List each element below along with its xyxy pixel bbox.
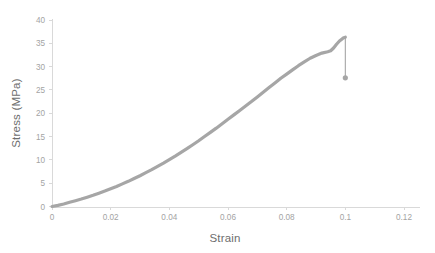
stress-strain-curve [52, 37, 345, 206]
chart-canvas: 0510152025303540 00.020.040.060.080.10.1… [0, 0, 435, 253]
y-tick-label: 30 [36, 63, 46, 72]
fracture-drop-marker [343, 75, 348, 80]
x-tick-label: 0.02 [103, 213, 119, 222]
x-tick-label: 0.1 [340, 213, 352, 222]
x-tick-label: 0.06 [220, 213, 236, 222]
y-tick-label: 5 [40, 179, 45, 188]
y-tick-label: 0 [40, 203, 45, 212]
y-tick-label: 40 [36, 16, 46, 25]
y-axis-title: Stress (MPa) [10, 78, 22, 148]
x-tick-label: 0 [50, 213, 55, 222]
y-tick-label: 15 [36, 133, 46, 142]
x-tick-label: 0.04 [161, 213, 177, 222]
y-axis-tick-labels: 0510152025303540 [36, 16, 46, 212]
stress-strain-chart: 0510152025303540 00.020.040.060.080.10.1… [0, 0, 435, 253]
y-tick-label: 25 [36, 86, 46, 95]
y-tick-label: 35 [36, 39, 46, 48]
x-axis-title: Strain [209, 232, 240, 244]
y-tick-label: 10 [36, 156, 46, 165]
y-tick-label: 20 [36, 109, 46, 118]
x-tick-label: 0.08 [279, 213, 295, 222]
x-axis-tick-labels: 00.020.040.060.080.10.12 [50, 213, 413, 222]
x-tick-label: 0.12 [396, 213, 412, 222]
